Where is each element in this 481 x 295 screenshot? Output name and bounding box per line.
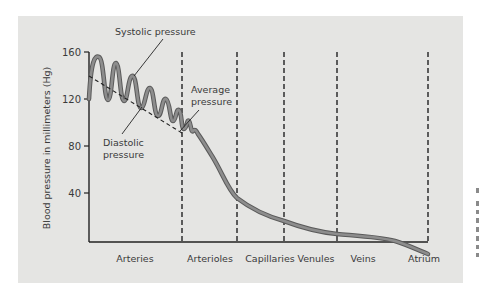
average-label-line2: pressure [191, 96, 232, 107]
category-veins: Veins [350, 253, 375, 264]
systolic-label: Systolic pressure [115, 26, 196, 37]
category-arterioles: Arterioles [187, 253, 233, 264]
y-tick-80: 80 [68, 141, 81, 152]
y-tick-160: 160 [62, 47, 81, 58]
blood-pressure-chart: Blood pressure in millimeters (Hg) 160 1… [0, 0, 481, 295]
category-atrium: Atrium [408, 253, 440, 264]
category-capillaries: Capillaries [245, 253, 295, 264]
average-label-line1: Average [191, 84, 230, 95]
diastolic-label-line1: Diastolic [103, 137, 144, 148]
region-dividers [182, 52, 428, 242]
cropped-side-text [476, 188, 479, 257]
y-tick-120: 120 [62, 94, 81, 105]
systolic-pointer [134, 39, 163, 76]
diastolic-pointer [122, 107, 142, 134]
x-category-labels: Arteries Arterioles Capillaries Venules … [116, 253, 440, 264]
y-axis-label: Blood pressure in millimeters (Hg) [41, 67, 52, 230]
category-venules: Venules [297, 253, 334, 264]
category-arteries: Arteries [116, 253, 153, 264]
y-tick-40: 40 [68, 188, 81, 199]
y-ticks: 160 120 80 40 [62, 47, 89, 199]
diastolic-label-line2: pressure [103, 149, 144, 160]
